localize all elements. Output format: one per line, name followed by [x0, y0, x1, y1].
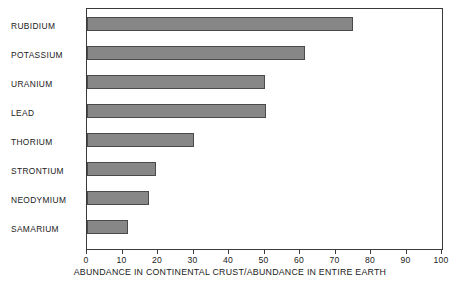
x-tick — [86, 249, 87, 254]
plot-area — [86, 8, 443, 250]
x-tick — [264, 249, 265, 254]
x-tick — [299, 249, 300, 254]
category-label: LEAD — [11, 99, 83, 128]
category-label: POTASSIUM — [11, 41, 83, 70]
x-tick-label: 60 — [284, 255, 314, 265]
bar-samarium — [87, 220, 128, 234]
x-tick-label: 50 — [249, 255, 279, 265]
x-tick — [370, 249, 371, 254]
x-tick-label: 0 — [71, 255, 101, 265]
category-label: RUBIDIUM — [11, 12, 83, 41]
x-tick-label: 100 — [426, 255, 456, 265]
bar-uranium — [87, 75, 265, 89]
x-axis-title: ABUNDANCE IN CONTINENTAL CRUST/ABUNDANCE… — [0, 267, 460, 277]
x-tick-label: 20 — [142, 255, 172, 265]
x-tick — [122, 249, 123, 254]
bar-neodymium — [87, 191, 149, 205]
category-label: STRONTIUM — [11, 157, 83, 186]
x-tick-label: 80 — [355, 255, 385, 265]
category-label: URANIUM — [11, 70, 83, 99]
x-tick-label: 70 — [320, 255, 350, 265]
x-tick-label: 40 — [213, 255, 243, 265]
bar-rubidium — [87, 17, 353, 31]
x-tick — [441, 249, 442, 254]
bar-lead — [87, 104, 266, 118]
x-tick-label: 30 — [178, 255, 208, 265]
bar-thorium — [87, 133, 194, 147]
x-tick-label: 90 — [391, 255, 421, 265]
x-tick — [406, 249, 407, 254]
bar-potassium — [87, 46, 305, 60]
bar-strontium — [87, 162, 156, 176]
category-label: NEODYMIUM — [11, 186, 83, 215]
category-label: SAMARIUM — [11, 215, 83, 244]
x-tick — [335, 249, 336, 254]
x-tick — [193, 249, 194, 254]
x-tick-label: 10 — [107, 255, 137, 265]
bar-chart: RUBIDIUMPOTASSIUMURANIUMLEADTHORIUMSTRON… — [0, 0, 460, 286]
category-label: THORIUM — [11, 128, 83, 157]
x-tick — [228, 249, 229, 254]
x-tick — [157, 249, 158, 254]
